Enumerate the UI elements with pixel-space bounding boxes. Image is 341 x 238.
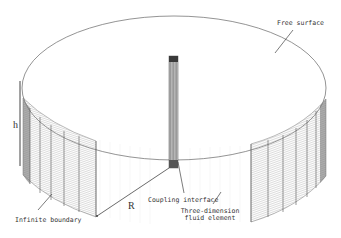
free-surface-label: Free surface <box>277 20 324 27</box>
infinite-boundary-leader <box>38 194 52 210</box>
coupling-column <box>169 56 178 168</box>
coupling-interface-leader <box>178 162 184 193</box>
infinite-boundary-right <box>251 99 326 222</box>
infinite-boundary-label: Infinite boundary <box>15 217 82 224</box>
infinite-boundary-left <box>23 98 96 217</box>
coupling-interface-label: Coupling interface <box>148 197 218 204</box>
r-label: R <box>128 202 135 209</box>
h-label: h <box>13 121 18 128</box>
three-dimension-label-line2: fluid element <box>177 215 243 222</box>
fluid-domain-diagram: Free surface h R Coupling interface Thre… <box>0 0 341 238</box>
